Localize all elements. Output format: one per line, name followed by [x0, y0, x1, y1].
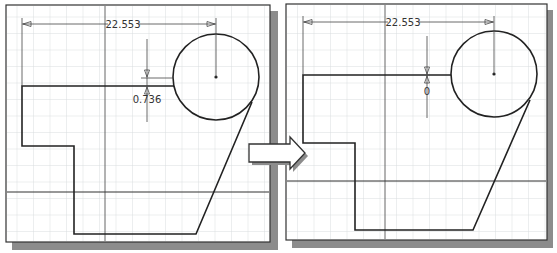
horizontal-dimension-value[interactable]: 22.553: [106, 19, 141, 30]
vertical-dimension-value[interactable]: 0.736: [133, 94, 162, 105]
figure: 22.553 0.736 22.553: [0, 0, 557, 253]
panel-before: 22.553 0.736: [6, 5, 278, 250]
panel-after: 22.553 0: [286, 4, 553, 248]
vertical-dimension-value[interactable]: 0: [424, 86, 430, 97]
horizontal-dimension-value[interactable]: 22.553: [386, 17, 421, 28]
